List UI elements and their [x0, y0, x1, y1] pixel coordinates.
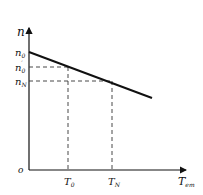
characteristic-line: [29, 52, 152, 98]
origin-label: o: [18, 165, 24, 175]
tick-nN: nN: [15, 76, 27, 88]
tick-TN: TN: [108, 176, 121, 188]
x-axis-label: Tem: [178, 175, 195, 188]
tick-n0: n0: [15, 47, 25, 59]
characteristic-diagram: n n0 n0′ nN o T0 TN Tem: [0, 0, 203, 195]
y-axis-label: n: [17, 25, 25, 39]
tick-n0prime: n0′: [15, 59, 25, 74]
tick-T0: T0: [64, 176, 75, 188]
